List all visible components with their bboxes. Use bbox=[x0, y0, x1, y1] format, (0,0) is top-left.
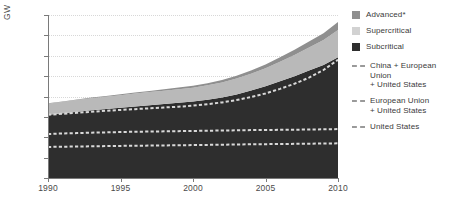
legend-swatch bbox=[352, 43, 360, 51]
y-axis-label: GW bbox=[2, 5, 12, 20]
y-tick-mark bbox=[44, 15, 48, 16]
legend-label: Supercritical bbox=[366, 26, 411, 36]
legend-label: China + European Union+ United States bbox=[370, 61, 456, 90]
legend-label: Advanced* bbox=[366, 10, 406, 20]
legend-label: United States bbox=[370, 122, 419, 132]
x-tick-mark bbox=[193, 178, 194, 182]
x-tick-mark bbox=[266, 178, 267, 182]
x-tick-mark bbox=[338, 178, 339, 182]
x-tick-label: 2010 bbox=[328, 183, 348, 193]
legend-swatch bbox=[352, 27, 360, 35]
legend-item[interactable]: Advanced* bbox=[352, 10, 456, 20]
legend-dash-icon bbox=[352, 100, 365, 102]
legend-label: European Union+ United States bbox=[370, 96, 429, 115]
legend-item[interactable]: European Union+ United States bbox=[352, 96, 456, 115]
chart-figure: 02004006008001 0001 2001 4001 600 199019… bbox=[0, 0, 457, 210]
x-tick-mark bbox=[48, 178, 49, 182]
y-tick-mark bbox=[44, 76, 48, 77]
x-tick-label: 2005 bbox=[256, 183, 276, 193]
x-tick-label: 1995 bbox=[111, 183, 131, 193]
legend-label: Subcritical bbox=[366, 42, 404, 52]
legend-dash-icon bbox=[352, 65, 365, 67]
plot-area bbox=[48, 15, 338, 178]
y-tick-mark bbox=[44, 97, 48, 98]
legend-item[interactable]: Subcritical bbox=[352, 42, 456, 52]
x-tick-mark bbox=[121, 178, 122, 182]
legend-dash-icon bbox=[352, 126, 365, 128]
y-tick-mark bbox=[44, 35, 48, 36]
y-tick-mark bbox=[44, 158, 48, 159]
x-tick-label: 2000 bbox=[183, 183, 203, 193]
legend-item[interactable]: United States bbox=[352, 122, 456, 132]
series-svg bbox=[48, 15, 338, 178]
y-tick-mark bbox=[44, 56, 48, 57]
legend-item[interactable]: Supercritical bbox=[352, 26, 456, 36]
legend-swatch bbox=[352, 11, 360, 19]
y-axis-line bbox=[48, 15, 49, 178]
x-tick-label: 1990 bbox=[38, 183, 58, 193]
legend-item[interactable]: China + European Union+ United States bbox=[352, 61, 456, 90]
chart-legend: Advanced*SupercriticalSubcriticalChina +… bbox=[352, 10, 456, 138]
y-tick-mark bbox=[44, 117, 48, 118]
y-tick-mark bbox=[44, 137, 48, 138]
